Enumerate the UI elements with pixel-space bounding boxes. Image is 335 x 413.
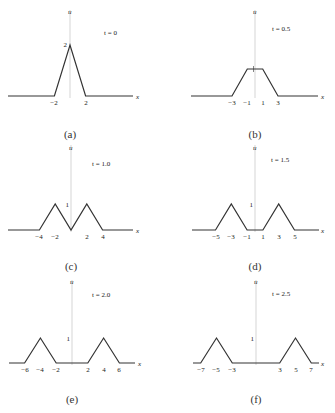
tick-label: −7 [197,366,205,374]
tick-label: −3 [227,233,235,241]
y-axis-label: u [253,8,257,16]
caption: (b) [249,128,262,141]
tick-label: 2 [84,99,88,107]
x-axis-label: x [320,93,325,101]
panel-c: u x 1 −4 −2 2 4 t = 1.0 (c) [8,144,140,273]
caption: (a) [64,128,77,141]
x-axis-label: x [320,360,325,368]
time-annotation: t = 0 [104,29,117,37]
time-annotation: t = 1.0 [92,160,111,168]
tick-label: −6 [21,366,29,374]
tick-label: 1 [261,99,265,107]
tick-label: 3 [278,366,282,374]
tick-label: 6 [117,366,121,374]
wave-curve [8,45,133,96]
time-annotation: t = 2.0 [92,291,111,299]
tick-label: 4 [101,233,105,241]
y-axis-label: u [70,278,74,286]
tick-label: 5 [294,366,298,374]
panel-d: u x 1 −5 −3 −1 1 3 5 t = 1.5 (d) [192,144,325,273]
panel-e: u x 1 −6 −4 −2 2 4 6 t = 2.0 (e) [9,278,142,406]
peak-label: 1 [251,335,255,343]
tick-label: 3 [277,233,281,241]
tick-label: −5 [212,233,220,241]
tick-label: 1 [261,233,265,241]
tick-label: −3 [228,99,236,107]
wave-curve [191,69,318,96]
x-axis-label: x [135,227,140,235]
figure: u x 2 −2 2 t = 0 (a) u x −3 −1 1 3 t = 0… [0,0,335,413]
x-axis-label: x [137,360,142,368]
peak-label: 1 [66,201,70,209]
peak-label: 1 [67,335,71,343]
caption: (d) [249,260,262,273]
panel-b: u x −3 −1 1 3 t = 0.5 (b) [191,8,325,141]
wave-curve [192,204,319,230]
tick-label: −1 [243,233,251,241]
tick-label: −3 [228,366,236,374]
tick-label: −2 [51,233,59,241]
y-axis-label: u [69,144,73,152]
tick-label: 4 [102,366,106,374]
tick-label: −4 [35,233,43,241]
tick-label: 2 [86,366,90,374]
y-axis-label: u [68,8,72,16]
tick-label: −2 [50,99,58,107]
panel-a: u x 2 −2 2 t = 0 (a) [8,8,140,141]
wave-curve [8,204,133,230]
tick-label: 7 [309,366,313,374]
x-axis-label: x [135,93,140,101]
tick-label: 3 [276,99,280,107]
tick-label: 2 [85,233,89,241]
peak-label: 2 [64,41,68,49]
y-axis-label: u [253,144,257,152]
y-axis-label: u [254,278,258,286]
tick-label: −4 [36,366,44,374]
panel-f: u x 1 −7 −5 −3 3 5 7 t = 2.5 (f) [193,278,325,406]
caption: (f) [251,393,262,406]
caption: (e) [66,393,79,406]
tick-label: −2 [52,366,60,374]
caption: (c) [65,260,78,273]
x-axis-label: x [320,227,325,235]
time-annotation: t = 2.5 [272,290,291,298]
time-annotation: t = 1.5 [271,156,290,164]
peak-label: 1 [250,201,254,209]
tick-label: −1 [243,99,251,107]
tick-label: −5 [212,366,220,374]
time-annotation: t = 0.5 [272,25,291,33]
tick-label: 5 [293,233,297,241]
